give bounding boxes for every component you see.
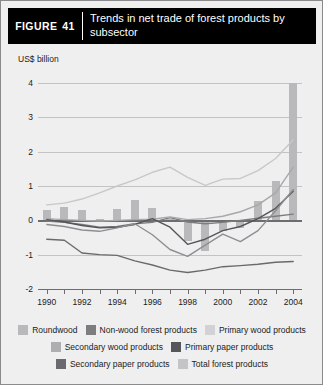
x-axis-tick-mark (276, 289, 277, 294)
legend-item[interactable]: Roundwood (18, 325, 77, 335)
x-axis-tick-mark (82, 289, 83, 294)
y-axis-tick-label: 3 (28, 112, 33, 122)
legend-item[interactable]: Total forest products (178, 359, 269, 369)
x-axis-tick-mark (117, 289, 118, 294)
x-axis-tick-label: 2002 (249, 297, 268, 307)
legend-swatch (86, 325, 96, 335)
x-axis-tick-label: 1996 (143, 297, 162, 307)
legend-row: Secondary wood productsPrimary paper pro… (8, 338, 316, 355)
y-axis-label: US$ billion (18, 54, 59, 64)
x-axis-tick-mark (223, 289, 224, 294)
legend-swatch (18, 325, 28, 335)
x-axis-tick-label: 1992 (73, 297, 92, 307)
y-axis-tick-label: 2 (28, 147, 33, 157)
legend-row: RoundwoodNon-wood forest productsPrimary… (8, 321, 316, 338)
legend-swatch (56, 359, 66, 369)
legend-item[interactable]: Non-wood forest products (86, 325, 197, 335)
figure-number: 41 (62, 20, 74, 32)
x-axis-tick-mark (47, 289, 48, 294)
x-axis-tick-mark (135, 289, 136, 294)
x-axis-tick-mark (258, 289, 259, 294)
x-axis-tick-mark (188, 289, 189, 294)
legend-swatch (51, 342, 61, 352)
legend-label: Total forest products (192, 359, 269, 369)
legend-label: Secondary paper products (70, 359, 170, 369)
legend-swatch (205, 325, 215, 335)
line-series-group (38, 83, 302, 289)
x-axis-tick-label: 1994 (108, 297, 127, 307)
legend-item[interactable]: Primary paper products (171, 342, 273, 352)
figure-card: FIGURE 41 Trends in net trade of forest … (0, 0, 323, 385)
legend-row: Secondary paper productsTotal forest pro… (8, 355, 316, 372)
figure-tag: FIGURE 41 (8, 8, 82, 44)
legend-label: Roundwood (32, 325, 77, 335)
y-axis-tick-label: 0 (28, 215, 33, 225)
chart-legend: RoundwoodNon-wood forest productsPrimary… (8, 321, 316, 379)
legend-label: Primary paper products (185, 342, 273, 352)
x-axis-tick-mark (100, 289, 101, 294)
legend-swatch (171, 342, 181, 352)
y-axis-tick-label: -2 (25, 284, 33, 294)
y-axis-tick-label: -1 (25, 250, 33, 260)
legend-item[interactable]: Secondary wood products (51, 342, 163, 352)
x-axis-tick-label: 2004 (284, 297, 303, 307)
legend-item[interactable]: Primary wood products (205, 325, 306, 335)
x-axis-tick-label: 2000 (213, 297, 232, 307)
x-axis-tick-mark (170, 289, 171, 294)
x-axis-tick-mark (240, 289, 241, 294)
x-axis-tick-label: 1990 (37, 297, 56, 307)
x-axis-tick-label: 1998 (178, 297, 197, 307)
line-series (47, 239, 293, 272)
x-axis-tick-mark (205, 289, 206, 294)
figure-header: FIGURE 41 Trends in net trade of forest … (8, 8, 316, 44)
x-axis-tick-mark (152, 289, 153, 294)
legend-swatch (178, 359, 188, 369)
line-series (47, 189, 293, 256)
legend-item[interactable]: Secondary paper products (56, 359, 170, 369)
x-axis-tick-mark (293, 289, 294, 294)
figure-title: Trends in net trade of forest products b… (83, 8, 316, 44)
line-series (47, 140, 293, 205)
legend-label: Non-wood forest products (100, 325, 197, 335)
line-series (47, 167, 293, 221)
plot-area: 43210-1-2 199019921994199619982000200220… (38, 83, 302, 289)
y-axis-tick-label: 4 (28, 78, 33, 88)
legend-label: Primary wood products (219, 325, 306, 335)
x-axis-tick-mark (64, 289, 65, 294)
plot-panel: US$ billion 43210-1-2 199019921994199619… (8, 48, 316, 318)
y-axis-tick-label: 1 (28, 181, 33, 191)
figure-tag-word: FIGURE (15, 20, 57, 32)
legend-label: Secondary wood products (65, 342, 163, 352)
